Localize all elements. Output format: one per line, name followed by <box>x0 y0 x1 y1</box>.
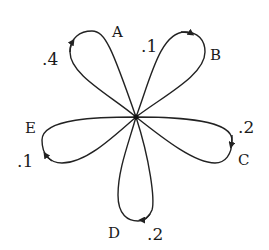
probability-label-b: .1 <box>141 36 157 56</box>
loop-c: C .2 <box>136 117 254 169</box>
loop-c-curve <box>136 117 232 163</box>
state-label-d: D <box>108 224 120 242</box>
loop-b: B .1 <box>136 32 221 117</box>
state-label-b: B <box>210 46 221 64</box>
loop-e-curve <box>42 117 136 163</box>
loop-a-curve <box>70 31 136 117</box>
probability-label-d: .2 <box>147 224 163 244</box>
probability-label-e: .1 <box>17 151 33 171</box>
center-node <box>134 115 139 120</box>
probability-label-c: .2 <box>238 117 254 137</box>
loop-d-curve <box>118 117 153 221</box>
state-label-c: C <box>238 151 249 169</box>
diagram-canvas: A .4 B .1 C .2 D .2 E .1 <box>0 0 269 250</box>
loop-a: A .4 <box>42 23 136 117</box>
state-label-e: E <box>25 119 36 137</box>
state-label-a: A <box>111 23 123 41</box>
loop-e-arrow-icon <box>45 154 52 161</box>
loop-e: E .1 <box>17 117 136 171</box>
probability-label-a: .4 <box>42 49 58 69</box>
loop-d: D .2 <box>108 117 163 244</box>
loop-a-arrow-icon <box>70 41 73 52</box>
